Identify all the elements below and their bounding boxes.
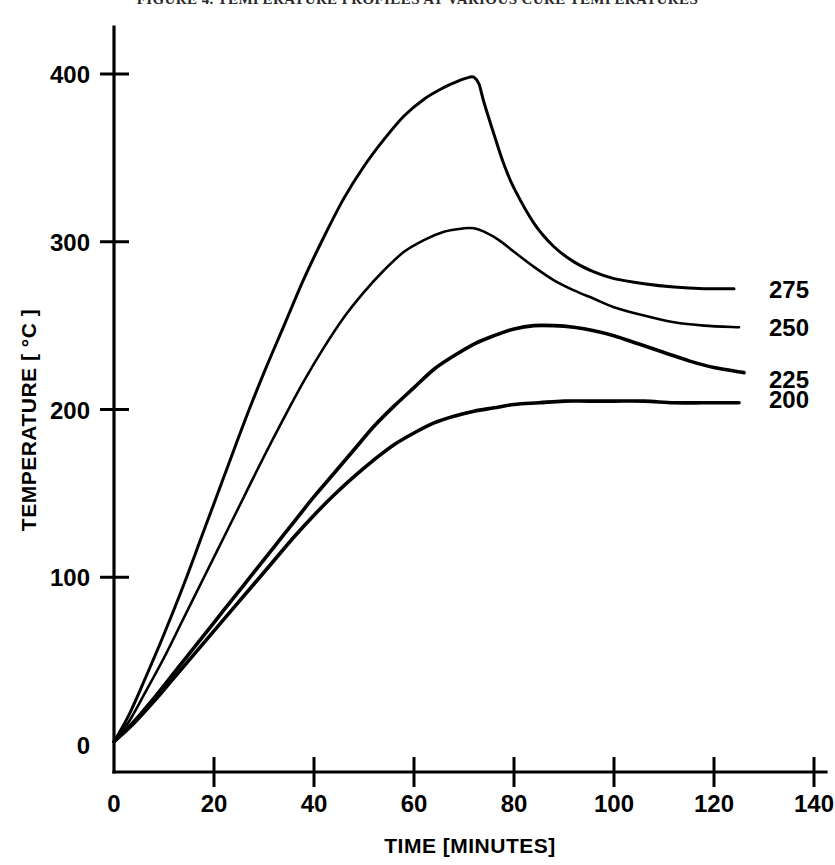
y-axis-title: TEMPERATURE [ °C ] xyxy=(17,309,40,531)
x-tick-label-40: 40 xyxy=(301,790,328,817)
y-axis-tick-labels: 0100200300400 xyxy=(50,61,90,759)
x-tick-label-100: 100 xyxy=(594,790,634,817)
y-tick-label-0: 0 xyxy=(77,732,90,759)
x-tick-label-0: 0 xyxy=(107,790,120,817)
x-tick-label-20: 20 xyxy=(201,790,228,817)
x-axis-tick-labels: 020406080100120140 xyxy=(107,790,834,817)
chart-canvas: 0100200300400 020406080100120140 2752502… xyxy=(0,0,835,865)
curve-225 xyxy=(114,325,744,741)
x-tick-label-80: 80 xyxy=(501,790,528,817)
y-tick-label-400: 400 xyxy=(50,61,90,88)
curve-250 xyxy=(114,228,739,742)
series-labels: 275250225200 xyxy=(769,276,809,414)
x-tick-label-60: 60 xyxy=(401,790,428,817)
axes-group xyxy=(114,27,826,772)
x-axis-title: TIME [MINUTES] xyxy=(384,834,555,857)
y-tick-label-100: 100 xyxy=(50,564,90,591)
y-tick-label-300: 300 xyxy=(50,229,90,256)
figure-container: FIGURE 4. TEMPERATURE PROFILES AT VARIOU… xyxy=(0,0,835,865)
series-label-250: 250 xyxy=(769,314,809,341)
x-tick-label-140: 140 xyxy=(794,790,834,817)
y-tick-label-200: 200 xyxy=(50,397,90,424)
series-label-200: 200 xyxy=(769,386,809,413)
data-curves xyxy=(114,77,744,742)
series-label-275: 275 xyxy=(769,276,809,303)
x-tick-label-120: 120 xyxy=(694,790,734,817)
